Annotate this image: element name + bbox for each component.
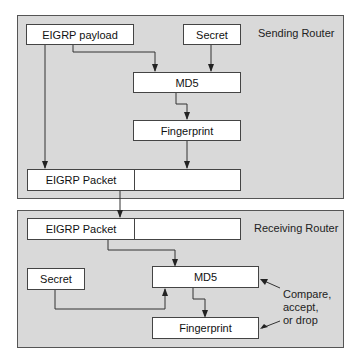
connector-lines	[0, 0, 359, 361]
